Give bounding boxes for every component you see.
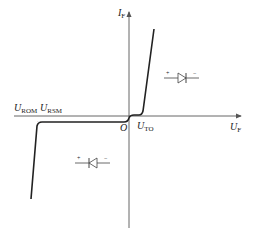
forward-minus-label: − — [193, 70, 197, 76]
rsm-tick-marks: · · — [37, 119, 42, 124]
threshold-voltage-label: UTO — [137, 120, 153, 133]
forward-plus-label: + — [166, 70, 170, 76]
forward-characteristic-curve — [129, 29, 154, 118]
diode-characteristic-diagram: · · IF UF O UTO UROM URSM + − + − — [0, 0, 254, 244]
diode-triangle-icon — [89, 158, 97, 168]
y-axis-label: IF — [117, 7, 125, 20]
reverse-diode-symbol: + − — [75, 155, 110, 168]
origin-label: O — [120, 122, 127, 133]
reverse-plus-label: + — [77, 155, 81, 161]
ursm-label: URSM — [40, 102, 63, 115]
x-axis-label: UF — [230, 121, 241, 134]
forward-diode-symbol: + − — [164, 70, 199, 83]
reverse-minus-label: − — [104, 155, 108, 161]
diode-triangle-icon — [178, 73, 186, 83]
urom-label: UROM — [14, 102, 38, 115]
